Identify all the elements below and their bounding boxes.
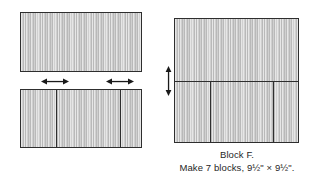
press-arrow-right — [106, 77, 134, 86]
bottom-unit-seam-1 — [56, 90, 58, 147]
block-horizontal-seam — [175, 81, 298, 83]
caption-block-name: Block F. — [172, 149, 302, 162]
block-bottom-seam-2 — [273, 81, 275, 143]
diagram-canvas: Block F. Make 7 blocks, 9½" × 9½". — [0, 0, 319, 178]
caption-block-details: Make 7 blocks, 9½" × 9½". — [172, 162, 302, 175]
block-caption: Block F. Make 7 blocks, 9½" × 9½". — [172, 149, 302, 174]
bottom-unit-rectangle — [20, 89, 142, 148]
top-unit-rectangle — [20, 12, 142, 72]
assembled-block-square — [174, 18, 299, 143]
press-arrow-left — [41, 77, 69, 86]
press-arrow-vertical — [164, 66, 173, 96]
bottom-unit-seam-2 — [120, 90, 122, 147]
block-bottom-seam-1 — [210, 81, 212, 143]
